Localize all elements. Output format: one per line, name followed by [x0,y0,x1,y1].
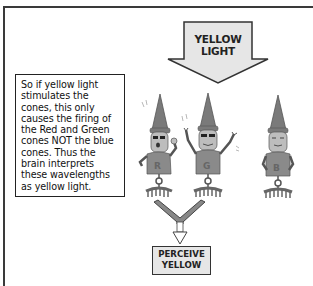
cone-letter-r: R [154,161,161,171]
red-cone-character: R [140,94,177,197]
cone-letter-g: G [203,161,210,171]
blue-cone-character: B [263,95,293,198]
cone-letter-b: B [273,163,280,173]
explanation-text: So if yellow light stimulates the cones,… [21,79,119,192]
merge-connector [147,200,217,250]
green-cone-character: G [182,93,239,197]
yellow-light-label: YELLOW LIGHT [167,33,269,57]
cone-characters: R G B [138,92,308,202]
explanation-box: So if yellow light stimulates the cones,… [15,74,125,197]
yellow-light-arrow: YELLOW LIGHT [167,21,269,84]
perceive-yellow-box: PERCEIVE YELLOW [152,246,211,275]
